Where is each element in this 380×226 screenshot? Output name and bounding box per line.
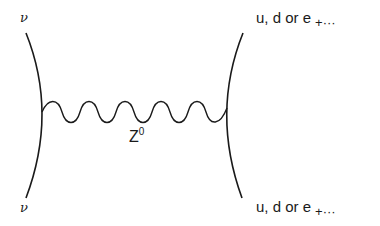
outgoing-top-suffix: +··· bbox=[315, 15, 336, 30]
incoming-neutrino-label-top: ν bbox=[20, 10, 28, 25]
z-boson-propagator bbox=[42, 102, 227, 123]
outgoing-bottom-text: u, d or e bbox=[256, 198, 311, 215]
left-fermion-line bbox=[26, 33, 42, 198]
incoming-neutrino-label-bottom: ν bbox=[20, 200, 28, 215]
right-fermion-line bbox=[227, 33, 243, 198]
outgoing-bottom-suffix: +··· bbox=[315, 204, 336, 219]
outgoing-particle-label-bottom: u, d or e+··· bbox=[256, 198, 336, 215]
z-boson-symbol: Z bbox=[129, 128, 139, 145]
z-boson-label: Z0 bbox=[129, 128, 144, 146]
diagram-lines bbox=[0, 0, 380, 226]
feynman-diagram: ν ν u, d or e+··· u, d or e+··· Z0 bbox=[0, 0, 380, 226]
outgoing-top-text: u, d or e bbox=[256, 9, 311, 26]
z-boson-charge: 0 bbox=[139, 126, 145, 137]
outgoing-particle-label-top: u, d or e+··· bbox=[256, 9, 336, 26]
